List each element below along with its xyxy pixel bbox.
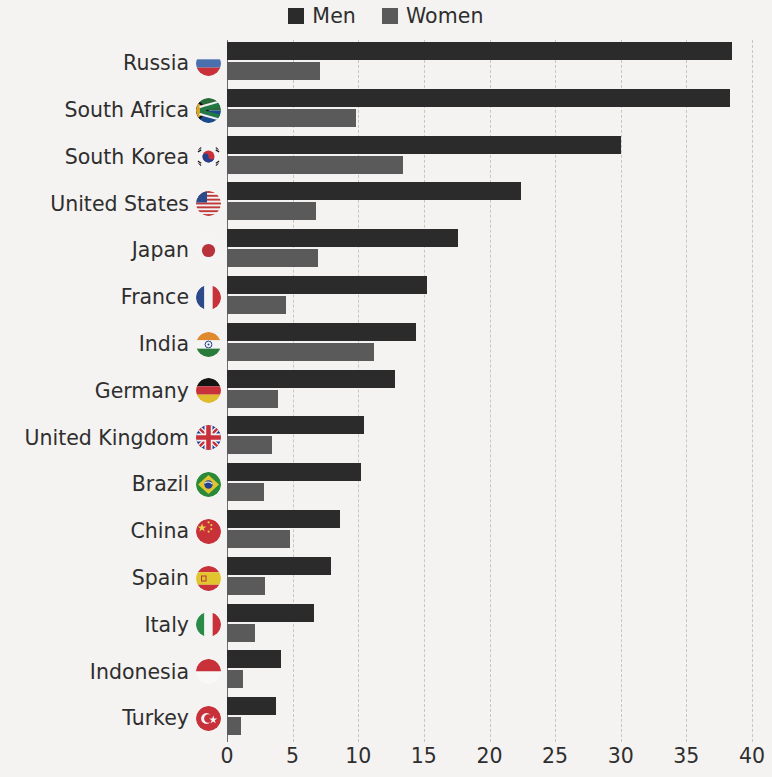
y-axis-tick: United States bbox=[0, 180, 227, 227]
country-label: Indonesia bbox=[90, 662, 189, 683]
x-tick-label: 35 bbox=[673, 744, 699, 768]
bar-men[interactable] bbox=[227, 697, 276, 715]
y-axis-tick: China bbox=[0, 508, 227, 555]
bar-women[interactable] bbox=[227, 202, 316, 220]
bar-group bbox=[227, 134, 752, 181]
x-tick-label: 30 bbox=[608, 744, 634, 768]
legend-label-men: Men bbox=[312, 4, 356, 28]
y-axis-tick: Germany bbox=[0, 368, 227, 415]
legend-swatch-men bbox=[288, 8, 304, 24]
bar-men[interactable] bbox=[227, 229, 458, 247]
bar-group bbox=[227, 414, 752, 461]
flag-icon-italy bbox=[196, 612, 221, 637]
bar-group bbox=[227, 274, 752, 321]
bar-group bbox=[227, 321, 752, 368]
bar-women[interactable] bbox=[227, 577, 265, 595]
bar-group bbox=[227, 508, 752, 555]
bar-men[interactable] bbox=[227, 136, 621, 154]
country-label: Italy bbox=[145, 615, 189, 636]
country-label: Russia bbox=[123, 53, 189, 74]
bar-women[interactable] bbox=[227, 296, 286, 314]
bar-men[interactable] bbox=[227, 276, 427, 294]
bar-men[interactable] bbox=[227, 604, 314, 622]
y-axis-tick: Japan bbox=[0, 227, 227, 274]
flag-icon-india bbox=[196, 332, 221, 357]
bar-women[interactable] bbox=[227, 390, 278, 408]
flag-icon-russia bbox=[196, 51, 221, 76]
bar-women[interactable] bbox=[227, 624, 255, 642]
flag-icon-france bbox=[196, 285, 221, 310]
bar-group bbox=[227, 602, 752, 649]
bar-men[interactable] bbox=[227, 557, 331, 575]
bar-rows bbox=[227, 40, 752, 742]
bar-women[interactable] bbox=[227, 436, 272, 454]
y-axis-tick: Turkey bbox=[0, 695, 227, 742]
flag-icon-indonesia bbox=[196, 659, 221, 684]
bar-men[interactable] bbox=[227, 416, 364, 434]
x-tick-label: 5 bbox=[286, 744, 299, 768]
legend-entry-men[interactable]: Men bbox=[288, 4, 356, 28]
legend-swatch-women bbox=[382, 8, 398, 24]
flag-icon-spain bbox=[196, 566, 221, 591]
y-axis-tick: South Africa bbox=[0, 87, 227, 134]
legend-entry-women[interactable]: Women bbox=[382, 4, 484, 28]
bar-women[interactable] bbox=[227, 717, 241, 735]
bar-women[interactable] bbox=[227, 156, 403, 174]
country-label: China bbox=[130, 521, 189, 542]
flag-icon-united-states bbox=[196, 191, 221, 216]
y-axis-tick: Brazil bbox=[0, 461, 227, 508]
bar-women[interactable] bbox=[227, 670, 243, 688]
y-axis-tick: India bbox=[0, 321, 227, 368]
bar-women[interactable] bbox=[227, 249, 318, 267]
y-axis-tick: Russia bbox=[0, 40, 227, 87]
x-tick-label: 15 bbox=[411, 744, 437, 768]
flag-icon-united-kingdom bbox=[196, 425, 221, 450]
flag-icon-turkey bbox=[196, 706, 221, 731]
legend-label-women: Women bbox=[406, 4, 484, 28]
country-label: Turkey bbox=[122, 708, 189, 729]
flag-icon-brazil bbox=[196, 472, 221, 497]
country-label: France bbox=[121, 287, 189, 308]
bar-men[interactable] bbox=[227, 323, 416, 341]
x-tick-label: 20 bbox=[476, 744, 502, 768]
flag-icon-china bbox=[196, 519, 221, 544]
flag-icon-south-korea bbox=[196, 144, 221, 169]
x-axis: 0510152025303540 bbox=[227, 742, 752, 777]
flag-icon-south-africa bbox=[196, 98, 221, 123]
bar-men[interactable] bbox=[227, 89, 730, 107]
bar-men[interactable] bbox=[227, 510, 340, 528]
bar-men[interactable] bbox=[227, 370, 395, 388]
bar-women[interactable] bbox=[227, 483, 264, 501]
bar-group bbox=[227, 40, 752, 87]
country-label: South Korea bbox=[65, 147, 189, 168]
bar-group bbox=[227, 227, 752, 274]
x-tick-label: 40 bbox=[739, 744, 765, 768]
flag-icon-germany bbox=[196, 378, 221, 403]
bar-women[interactable] bbox=[227, 109, 356, 127]
y-axis-tick: Italy bbox=[0, 602, 227, 649]
bar-group bbox=[227, 555, 752, 602]
bar-women[interactable] bbox=[227, 62, 320, 80]
bar-group bbox=[227, 695, 752, 742]
x-tick-label: 10 bbox=[345, 744, 371, 768]
bar-men[interactable] bbox=[227, 42, 732, 60]
x-tick-label: 0 bbox=[220, 744, 233, 768]
bar-group bbox=[227, 368, 752, 415]
plot-area bbox=[227, 40, 752, 742]
bar-chart: MenWomen RussiaSouth AfricaSouth KoreaUn… bbox=[0, 0, 772, 777]
chart-legend: MenWomen bbox=[0, 2, 772, 30]
y-axis-tick: Indonesia bbox=[0, 648, 227, 695]
bar-men[interactable] bbox=[227, 650, 281, 668]
country-label: Spain bbox=[132, 568, 189, 589]
bar-group bbox=[227, 648, 752, 695]
bar-group bbox=[227, 461, 752, 508]
bar-women[interactable] bbox=[227, 343, 374, 361]
gridline-40 bbox=[752, 40, 754, 742]
country-label: India bbox=[139, 334, 189, 355]
flag-icon-japan bbox=[196, 238, 221, 263]
bar-men[interactable] bbox=[227, 463, 361, 481]
bar-men[interactable] bbox=[227, 182, 521, 200]
y-axis-tick: United Kingdom bbox=[0, 414, 227, 461]
x-tick-label: 25 bbox=[542, 744, 568, 768]
bar-women[interactable] bbox=[227, 530, 290, 548]
